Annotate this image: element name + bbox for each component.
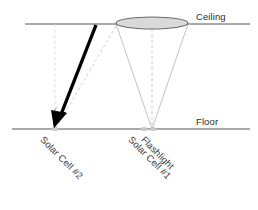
incident-light-arrowhead-solid	[51, 110, 67, 128]
ceiling-light-spot	[116, 17, 188, 29]
floor-label: Floor	[196, 116, 218, 127]
solar-cell-1-marker	[141, 127, 148, 130]
solar-cell-2-marker	[52, 127, 59, 130]
diagram-vector-layer	[0, 0, 258, 210]
ceiling-label: Ceiling	[196, 11, 226, 22]
diagram-canvas: Ceiling Floor Solar Cell #2 Solar Cell #…	[0, 0, 258, 210]
flashlight-marker	[150, 127, 156, 130]
incident-light-arrow-shaft	[60, 25, 96, 117]
